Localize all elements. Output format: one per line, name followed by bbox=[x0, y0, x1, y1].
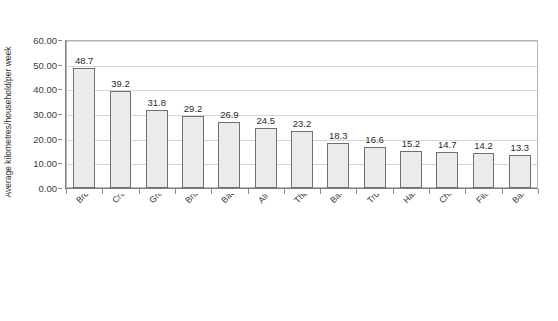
y-axis-tick-mark bbox=[58, 65, 62, 66]
y-axis-tick-mark bbox=[58, 163, 62, 164]
bar-group: 48.7 bbox=[73, 40, 95, 188]
bars-layer: 48.739.231.829.226.924.523.218.316.615.2… bbox=[66, 40, 538, 188]
bar-value-label: 18.3 bbox=[329, 130, 348, 141]
y-axis-tick-label: 60.00 bbox=[33, 35, 57, 46]
bar-value-label: 23.2 bbox=[293, 118, 312, 129]
bar-group: 26.9 bbox=[218, 40, 240, 188]
y-axis-tick-mark bbox=[58, 89, 62, 90]
y-axis-tick-mark bbox=[58, 40, 62, 41]
bar-group: 18.3 bbox=[327, 40, 349, 188]
bar[interactable] bbox=[400, 151, 422, 188]
cut-off-chart-title: journeys per household per week bbox=[0, 0, 558, 11]
bar-group: 23.2 bbox=[291, 40, 313, 188]
x-axis-category-labels: Broxbourne N=106Cramlington N=129Great P… bbox=[0, 194, 558, 321]
bar[interactable] bbox=[364, 147, 386, 188]
bar-group: 13.3 bbox=[509, 40, 531, 188]
y-axis-tick-label: 40.00 bbox=[33, 84, 57, 95]
bar-group: 14.2 bbox=[473, 40, 495, 188]
bar-value-label: 31.8 bbox=[148, 97, 167, 108]
bar[interactable] bbox=[473, 153, 495, 188]
bar[interactable] bbox=[73, 68, 95, 188]
bar-group: 29.2 bbox=[182, 40, 204, 188]
bar[interactable] bbox=[509, 155, 531, 188]
bar-value-label: 16.6 bbox=[365, 134, 384, 145]
bar[interactable] bbox=[436, 152, 458, 188]
y-axis-title: Average kilometres/household/per week bbox=[0, 24, 16, 220]
bar[interactable] bbox=[182, 116, 204, 188]
y-axis-tick-label: 10.00 bbox=[33, 158, 57, 169]
bar-value-label: 14.2 bbox=[474, 140, 493, 151]
x-axis-category-label: Filton Avenue N=140 bbox=[474, 194, 539, 205]
bar-group: 31.8 bbox=[146, 40, 168, 188]
y-axis-tick-mark bbox=[58, 139, 62, 140]
y-axis-tick-label: 0.00 bbox=[39, 183, 58, 194]
bar-value-label: 48.7 bbox=[75, 55, 94, 66]
bar-value-label: 39.2 bbox=[111, 78, 130, 89]
bar-chart-figure: journeys per household per week Average … bbox=[0, 0, 558, 321]
x-axis-category-label: Bradley Stoke N=131 bbox=[183, 194, 249, 205]
y-axis-tick-label: 20.00 bbox=[33, 133, 57, 144]
bar-group: 16.6 bbox=[364, 40, 386, 188]
y-axis-tick-label: 30.00 bbox=[33, 109, 57, 120]
y-axis-tick-label: 50.00 bbox=[33, 59, 57, 70]
bar[interactable] bbox=[146, 110, 168, 188]
bar-value-label: 26.9 bbox=[220, 109, 239, 120]
bar-value-label: 14.7 bbox=[438, 139, 457, 150]
bar[interactable] bbox=[110, 91, 132, 188]
bar-value-label: 13.3 bbox=[511, 142, 530, 153]
x-axis-category-label: Barking N=93 bbox=[510, 194, 555, 205]
bar-value-label: 29.2 bbox=[184, 103, 203, 114]
bar-value-label: 24.5 bbox=[256, 115, 275, 126]
bar[interactable] bbox=[255, 128, 277, 188]
bar[interactable] bbox=[291, 131, 313, 188]
bar-group: 14.7 bbox=[436, 40, 458, 188]
bar-group: 15.2 bbox=[400, 40, 422, 188]
bar-group: 24.5 bbox=[255, 40, 277, 188]
bar[interactable] bbox=[218, 122, 240, 188]
bar-value-label: 15.2 bbox=[402, 138, 421, 149]
y-axis-tick-mark bbox=[58, 114, 62, 115]
y-axis-tick-mark bbox=[58, 188, 62, 189]
bar-group: 39.2 bbox=[110, 40, 132, 188]
bar[interactable] bbox=[327, 143, 349, 188]
x-axis-category-label: Cherry Hinton N=126 bbox=[437, 194, 503, 205]
y-axis-title-text: Average kilometres/household/per week bbox=[3, 46, 13, 197]
